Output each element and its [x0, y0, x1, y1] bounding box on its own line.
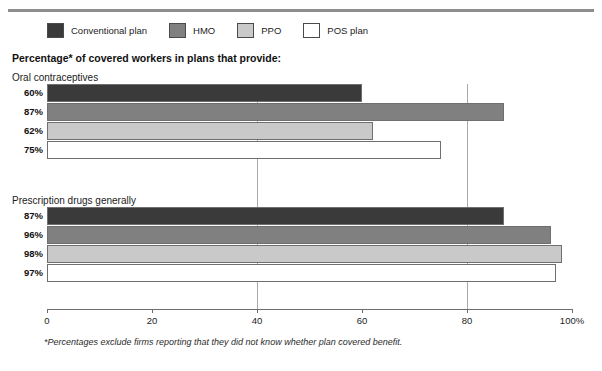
legend-item-1: HMO [169, 23, 215, 38]
x-axis-line [47, 309, 572, 310]
legend-swatch-icon [237, 23, 254, 38]
x-axis-tick-0 [47, 309, 48, 313]
bar-value-label: 62% [12, 122, 43, 140]
legend-item-label: HMO [193, 25, 215, 36]
bar-value-label: 98% [12, 245, 43, 263]
legend-item-label: PPO [261, 25, 281, 36]
bar-pos-plan [47, 264, 556, 282]
gridline-40 [257, 84, 258, 309]
x-axis-tick-40 [257, 309, 258, 313]
x-axis-label-40: 40 [252, 315, 263, 326]
bar-ppo [47, 122, 373, 140]
bar-row: 97% [0, 264, 602, 282]
group-title-0: Oral contraceptives [12, 72, 98, 83]
bar-value-label: 87% [12, 207, 43, 225]
x-axis-tick-20 [152, 309, 153, 313]
legend-swatch-icon [169, 23, 186, 38]
gridline-80 [467, 84, 468, 309]
bar-ppo [47, 245, 562, 263]
legend-item-3: POS plan [303, 23, 368, 38]
legend-item-0: Conventional plan [47, 23, 147, 38]
bar-row: 75% [0, 141, 602, 159]
bar-pos-plan [47, 141, 441, 159]
clipped-header-text [0, 0, 602, 2]
legend-swatch-icon [47, 23, 64, 38]
bar-value-label: 60% [12, 84, 43, 102]
chart-footnote: *Percentages exclude firms reporting tha… [44, 337, 402, 347]
bar-row: 62% [0, 122, 602, 140]
bar-value-label: 75% [12, 141, 43, 159]
chart-subtitle: Percentage* of covered workers in plans … [12, 52, 281, 64]
legend-item-2: PPO [237, 23, 281, 38]
bar-row: 98% [0, 245, 602, 263]
legend-swatch-icon [303, 23, 320, 38]
x-axis-tick-60 [362, 309, 363, 313]
bar-value-label: 87% [12, 103, 43, 121]
x-axis-label-100: 100% [560, 315, 584, 326]
bar-row: 87% [0, 103, 602, 121]
legend-item-label: POS plan [327, 25, 368, 36]
x-axis-tick-100 [572, 309, 573, 313]
header-rule [8, 9, 594, 12]
bar-conventional-plan [47, 84, 362, 102]
bar-row: 87% [0, 207, 602, 225]
group-title-1: Prescription drugs generally [12, 195, 136, 206]
x-axis-label-60: 60 [357, 315, 368, 326]
x-axis-tick-80 [467, 309, 468, 313]
x-axis-label-80: 80 [462, 315, 473, 326]
legend-item-label: Conventional plan [71, 25, 147, 36]
x-axis-label-0: 0 [44, 315, 49, 326]
x-axis-label-20: 20 [147, 315, 158, 326]
bar-hmo [47, 103, 504, 121]
bar-row: 60% [0, 84, 602, 102]
bar-value-label: 96% [12, 226, 43, 244]
bar-value-label: 97% [12, 264, 43, 282]
bar-row: 96% [0, 226, 602, 244]
bar-conventional-plan [47, 207, 504, 225]
bar-hmo [47, 226, 551, 244]
chart-legend: Conventional planHMOPPOPOS plan [47, 21, 390, 39]
